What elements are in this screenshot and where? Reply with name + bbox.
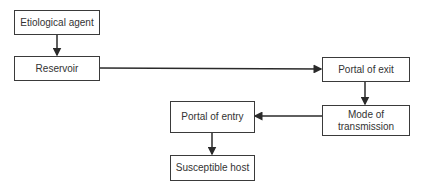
- node-portal-of-entry: Portal of entry: [170, 101, 255, 133]
- node-label: Reservoir: [36, 63, 79, 75]
- node-reservoir: Reservoir: [14, 56, 100, 81]
- node-etiological-agent: Etiological agent: [14, 10, 100, 35]
- node-label-line1: Mode of: [348, 109, 384, 121]
- node-susceptible-host: Susceptible host: [170, 155, 255, 181]
- node-mode-of-transmission: Mode of transmission: [322, 105, 410, 136]
- node-label: Portal of exit: [338, 64, 394, 76]
- node-label: Portal of entry: [181, 111, 243, 123]
- node-label: Susceptible host: [176, 162, 249, 174]
- node-label: Etiological agent: [20, 17, 93, 29]
- arrow-reservoir-to-exit: [99, 68, 321, 69]
- node-portal-of-exit: Portal of exit: [322, 57, 410, 82]
- node-label-line2: transmission: [338, 121, 394, 133]
